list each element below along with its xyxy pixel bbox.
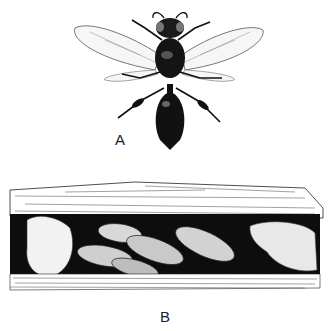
nest-cavity-icon (5, 178, 330, 303)
wasp-icon (60, 0, 280, 170)
panel-b-nest-illustration (5, 178, 330, 303)
panel-a-wasp-illustration (60, 0, 280, 170)
panel-a-label: A (115, 131, 125, 148)
panel-b-label: B (160, 308, 170, 325)
